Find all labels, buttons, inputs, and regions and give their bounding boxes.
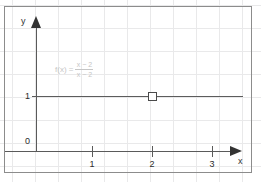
x-tick-mark-2 [152,146,153,157]
x-tick-label-3: 3 [205,159,219,169]
formula-denominator: x − 2 [77,70,92,79]
x-tick-mark-1 [92,146,93,157]
figure-frame [4,6,252,173]
y-axis-label: y [21,16,26,26]
x-tick-label-2: 2 [145,159,159,169]
x-tick-label-1: 1 [85,159,99,169]
y-tick-label-0: 0 [18,136,30,146]
x-axis-label: x [238,156,243,166]
x-axis-line [5,151,231,152]
function-line [36,96,243,97]
y-axis-arrow-icon [31,16,41,28]
formula-numerator: x − 2 [77,60,92,69]
x-axis-arrow-icon [230,146,242,156]
x-tick-mark-3 [212,146,213,157]
formula-lhs: f(x) = [55,66,73,74]
function-formula: f(x) = x − 2 x − 2 [55,60,93,79]
graph-figure: y x 1 2 3 1 0 f(x) = x − 2 x − 2 [0,0,261,182]
removable-discontinuity-marker [148,92,157,101]
y-tick-label-1: 1 [18,91,30,101]
y-axis-line [36,24,37,152]
formula-fraction: x − 2 x − 2 [75,60,93,79]
